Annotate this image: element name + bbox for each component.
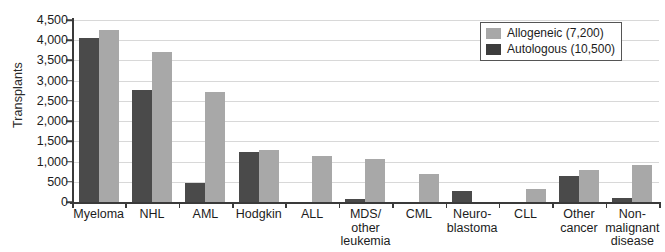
bar-group (392, 20, 445, 202)
y-axis-tick-label: 3,500 (6, 53, 68, 67)
bar-group (72, 20, 125, 202)
bar-group (125, 20, 178, 202)
bar-dark (239, 152, 259, 202)
legend-swatch-autologous-icon (486, 44, 501, 55)
y-axis-tick-label: 500 (6, 175, 68, 189)
x-axis-label: ALL (301, 208, 323, 222)
legend-swatch-allogeneic-icon (486, 28, 501, 39)
x-axis-label: AML (193, 208, 219, 222)
bar-light (632, 165, 652, 202)
bar-light (526, 189, 546, 202)
x-axis-category-labels: MyelomaNHLAMLHodgkinALLMDS/otherleukemia… (72, 208, 659, 252)
bar-light (419, 174, 439, 202)
x-axis-label: Non-malignantdisease (605, 208, 659, 249)
bar-group (285, 20, 338, 202)
bar-dark (185, 183, 205, 202)
bar-light (152, 52, 172, 202)
legend-label-autologous: Autologous (10,500) (507, 42, 615, 56)
chart-legend: Allogeneic (7,200) Autologous (10,500) (480, 22, 622, 61)
bar-light (312, 156, 332, 203)
legend-item-allogeneic: Allogeneic (7,200) (486, 26, 615, 40)
y-axis-tick-label: 2,000 (6, 114, 68, 128)
y-axis-tick-labels: 05001,0001,5002,0002,5003,0003,5004,0004… (0, 0, 68, 252)
x-axis-label: Myeloma (73, 208, 124, 222)
y-axis-tick-label: 3,000 (6, 74, 68, 88)
x-axis-label: CLL (514, 208, 537, 222)
x-axis-label: NHL (140, 208, 165, 222)
bar-light (579, 170, 599, 202)
bar-light (99, 30, 119, 202)
bar-group (179, 20, 232, 202)
y-axis-line (72, 18, 74, 204)
y-axis-tick-label: 4,000 (6, 33, 68, 47)
bar-group (339, 20, 392, 202)
y-axis-tick-label: 4,500 (6, 13, 68, 27)
bar-light (205, 92, 225, 202)
legend-label-allogeneic: Allogeneic (7,200) (507, 26, 604, 40)
bar-dark (79, 38, 99, 202)
y-axis-tick-label: 1,500 (6, 134, 68, 148)
bar-light (259, 150, 279, 202)
y-axis-tick-label: 1,000 (6, 155, 68, 169)
bar-dark (452, 191, 472, 202)
bar-group (232, 20, 285, 202)
bar-chart: Transplants 05001,0001,5002,0002,5003,00… (0, 0, 665, 252)
y-axis-tick-label: 0 (6, 195, 68, 209)
legend-item-autologous: Autologous (10,500) (486, 42, 615, 56)
bar-dark (132, 90, 152, 202)
x-axis-label: MDS/otherleukemia (340, 208, 390, 249)
y-axis-tick-label: 2,500 (6, 94, 68, 108)
bar-dark (559, 176, 579, 202)
bar-light (365, 159, 385, 202)
x-axis-label: Othercancer (560, 208, 598, 235)
x-axis-label: Hodgkin (236, 208, 282, 222)
x-axis-label: Neuro-blastoma (447, 208, 498, 235)
x-axis-line (70, 202, 661, 204)
x-axis-label: CML (406, 208, 432, 222)
